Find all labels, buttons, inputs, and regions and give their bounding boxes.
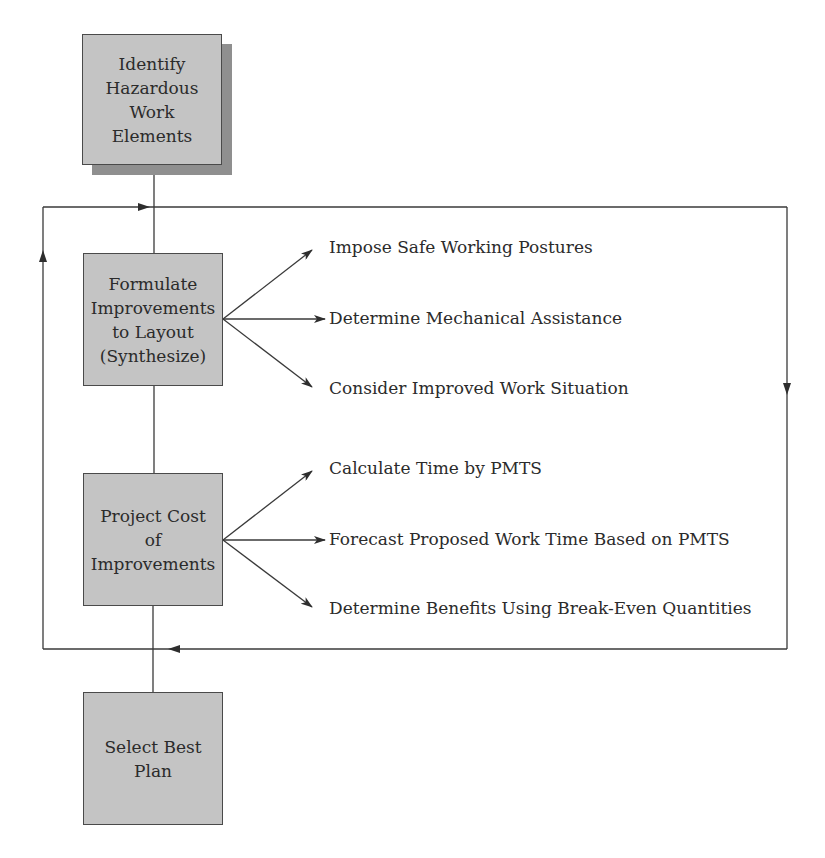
formulate-improvements-box: Formulate Improvements to Layout (Synthe…: [83, 253, 223, 386]
output-calculate-time-pmts: Calculate Time by PMTS: [329, 457, 542, 479]
loop-arrow-down-icon: [783, 383, 791, 395]
loop-arrow-left-icon: [168, 645, 180, 653]
output-forecast-work-time: Forecast Proposed Work Time Based on PMT…: [329, 528, 730, 550]
select-best-plan-box: Select Best Plan: [83, 692, 223, 825]
output-improved-work-situation: Consider Improved Work Situation: [329, 377, 629, 399]
output-break-even-benefits: Determine Benefits Using Break-Even Quan…: [329, 597, 752, 619]
output-mechanical-assistance: Determine Mechanical Assistance: [329, 307, 622, 329]
identify-hazardous-work-elements-box: Identify Hazardous Work Elements: [82, 34, 222, 165]
loop-arrow-up-icon: [39, 250, 47, 262]
project-cost-box: Project Cost of Improvements: [83, 473, 223, 606]
loop-arrow-right-icon: [138, 203, 150, 211]
output-impose-safe-postures: Impose Safe Working Postures: [329, 236, 593, 258]
